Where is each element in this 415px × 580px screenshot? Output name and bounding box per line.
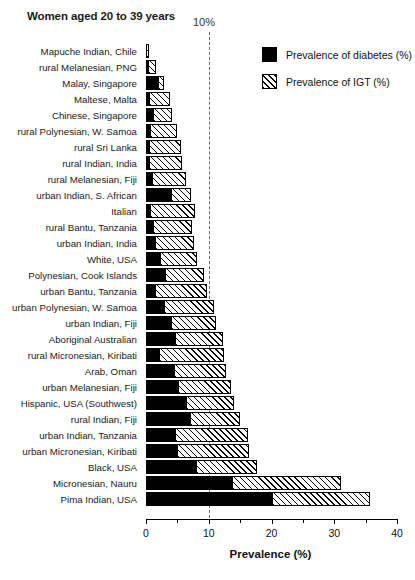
bar-row [146,332,223,348]
prevalence-bar-chart: Women aged 20 to 39 years 10% Prevalence… [0,0,415,580]
bar-segment-diabetes [146,236,155,250]
bar-segment-igt [196,460,257,474]
bar-segment-diabetes [146,444,177,458]
category-label: rural Polynesian, W. Samoa [0,124,141,140]
x-tick-major [334,519,335,524]
bar-row [146,316,216,332]
category-label: urban Indian, Fiji [0,316,141,332]
x-tick-major [272,519,273,524]
bar-segment-diabetes [146,284,155,298]
category-label: rural Indian, India [0,156,141,172]
bar-row [146,364,226,380]
bar-row [146,156,182,172]
bar-row [146,220,192,236]
bar-segment-diabetes [146,492,272,506]
bar-row [146,492,370,508]
bar-segment-igt [149,140,180,154]
bar-row [146,124,177,140]
plot-area [146,44,397,508]
bar-segment-igt [174,364,227,378]
bar-row [146,188,191,204]
bar-segment-diabetes [146,460,196,474]
bar-segment-igt [177,444,249,458]
bar-segment-diabetes [146,268,165,282]
x-axis-title: Prevalence (%) [0,548,415,560]
bar-segment-diabetes [146,364,174,378]
x-tick-label: 40 [391,527,403,539]
bar-segment-igt [153,220,193,234]
bar-segment-igt [149,156,182,170]
x-tick-major [397,519,398,524]
bar-segment-diabetes [146,380,178,394]
bar-row [146,428,248,444]
bar-row [146,204,195,220]
bar-row [146,252,197,268]
category-label: Polynesian, Cook Islands [0,268,141,284]
bar-segment-igt [272,492,371,506]
bar-row [146,412,240,428]
category-label: Black, USA [0,460,141,476]
bar-segment-igt [155,236,194,250]
category-label: rural Melanesian, PNG [0,60,141,76]
category-label: Mapuche Indian, Chile [0,44,141,60]
bar-segment-igt [232,476,341,490]
category-label: rural Indian, Fiji [0,412,141,428]
bar-segment-igt [159,348,225,362]
bar-row [146,460,257,476]
bar-segment-igt [165,268,205,282]
chart-title: Women aged 20 to 39 years [27,10,175,22]
bar-segment-diabetes [146,252,160,266]
bar-segment-diabetes [146,316,171,330]
bar-row [146,348,224,364]
bar-row [146,140,181,156]
bar-segment-diabetes [146,396,186,410]
category-label: urban Micronesian, Kiribati [0,444,141,460]
bar-row [146,284,207,300]
category-label: rural Bantu, Tanzania [0,220,141,236]
bar-row [146,268,204,284]
bar-segment-igt [178,380,231,394]
x-tick-minor [303,519,304,523]
category-label: rural Melanesian, Fiji [0,172,141,188]
bar-segment-igt [155,284,206,298]
bar-segment-igt [149,92,170,106]
category-label: Arab, Oman [0,364,141,380]
category-label: urban Melanesian, Fiji [0,380,141,396]
bar-row [146,92,170,108]
bar-segment-igt [146,44,149,58]
bar-row [146,300,214,316]
bar-row [146,60,156,76]
bar-row [146,236,194,252]
category-label: Malay, Singapore [0,76,141,92]
category-label: urban Indian, S. African [0,188,141,204]
bar-segment-igt [186,396,234,410]
category-label: urban Polynesian, W. Samoa [0,300,141,316]
bar-segment-igt [171,316,216,330]
category-label: urban Indian, India [0,236,141,252]
bar-segment-igt [150,124,178,138]
bar-segment-diabetes [146,76,158,90]
x-tick-label: 0 [143,527,149,539]
bar-row [146,444,249,460]
bar-row [146,44,149,60]
bar-segment-diabetes [146,108,153,122]
category-label: Pima Indian, USA [0,492,141,508]
bar-segment-diabetes [146,220,153,234]
bar-segment-diabetes [146,188,171,202]
bar-row [146,76,164,92]
bar-segment-igt [153,108,172,122]
bar-row [146,476,341,492]
bar-segment-igt [164,300,214,314]
x-tick-minor [240,519,241,523]
bar-segment-igt [171,188,190,202]
x-tick-major [209,519,210,524]
category-label: Micronesian, Nauru [0,476,141,492]
bar-segment-diabetes [146,428,175,442]
category-label: urban Indian, Tanzania [0,428,141,444]
category-label: rural Micronesian, Kiribati [0,348,141,364]
bar-segment-diabetes [146,412,190,426]
x-tick-label: 10 [203,527,215,539]
category-label: Italian [0,204,141,220]
bar-row [146,396,234,412]
bar-segment-igt [190,412,240,426]
